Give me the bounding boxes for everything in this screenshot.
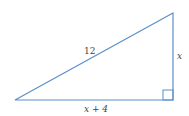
- horizontal-leg-label: x + 4: [84, 104, 108, 114]
- vertical-leg-label: x: [177, 51, 182, 61]
- triangle-diagram: 12 x x + 4: [0, 0, 189, 116]
- triangle: [15, 13, 173, 100]
- hypotenuse-label: 12: [84, 46, 95, 56]
- triangle-figure: [0, 0, 189, 116]
- right-angle-marker: [163, 90, 173, 100]
